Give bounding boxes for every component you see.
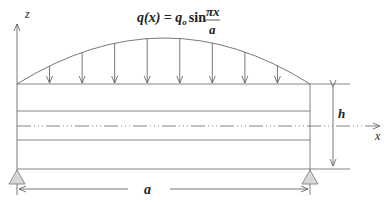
beam: [17, 84, 350, 195]
diagram-canvas: z q(x) = qosin πx a x h a: [0, 0, 389, 205]
load-curve: [17, 38, 310, 84]
load-equation: q(x) = qosin πx a: [137, 4, 220, 37]
height-label: h: [338, 106, 345, 121]
load-arrows: [50, 39, 278, 83]
right-support: [302, 170, 318, 184]
z-axis-label: z: [24, 7, 30, 21]
svg-text:a: a: [209, 22, 216, 37]
x-axis-label: x: [374, 129, 381, 143]
left-support: [9, 170, 25, 184]
length-label: a: [144, 182, 151, 197]
svg-text:q(x) = qosin: q(x) = qosin: [137, 10, 206, 27]
beam-diagram: z q(x) = qosin πx a x h a: [0, 0, 389, 205]
svg-text:πx: πx: [206, 4, 220, 19]
